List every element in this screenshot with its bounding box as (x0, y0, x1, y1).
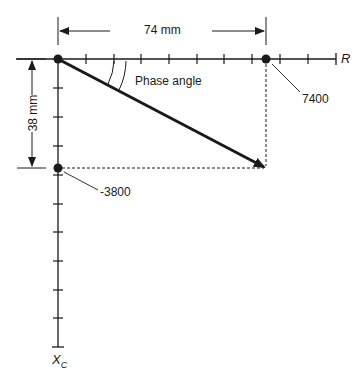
resistance-leader (272, 64, 300, 92)
resistance-value-label: 7400 (302, 92, 329, 106)
diagram-graphics (0, 0, 363, 381)
xc-axis-subscript: C (61, 360, 68, 370)
xc-axis-letter: X (52, 352, 61, 367)
xc-axis (52, 59, 64, 347)
xc-axis-label: XC (52, 352, 67, 370)
origin-point (54, 55, 63, 64)
phase-angle-label: Phase angle (135, 74, 202, 88)
reactance-leader (64, 172, 98, 190)
r-axis-label: R (341, 51, 350, 66)
dimension-horizontal-label: 74 mm (144, 23, 181, 37)
phasor-diagram: 74 mm 38 mm R Phase angle 7400 -3800 XC (0, 0, 363, 381)
reactance-point (54, 164, 63, 173)
reactance-value-label: -3800 (100, 185, 131, 199)
resistance-point (262, 55, 271, 64)
dimension-vertical-label: 38 mm (26, 94, 40, 132)
